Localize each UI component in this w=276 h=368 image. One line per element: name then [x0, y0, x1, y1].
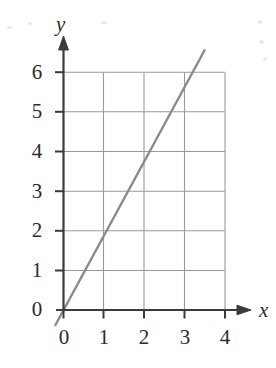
y-axis-arrowhead — [59, 36, 69, 50]
data-line-y-equals-2x — [55, 50, 205, 327]
y-tick-label-4: 4 — [28, 141, 46, 162]
x-axis-ticks — [64, 310, 226, 319]
x-axis — [56, 305, 251, 318]
x-tick-label-3: 3 — [176, 327, 194, 348]
x-tick-label-0: 0 — [55, 327, 73, 348]
y-axis — [55, 36, 68, 310]
chart-figure: y x 6 5 4 3 2 1 0 0 1 2 3 4 — [0, 0, 276, 368]
y-tick-label-2: 2 — [28, 220, 46, 241]
y-axis-label: y — [56, 14, 65, 35]
x-tick-label-2: 2 — [135, 327, 153, 348]
x-tick-label-4: 4 — [216, 327, 234, 348]
x-axis-arrowhead — [237, 305, 251, 315]
y-tick-label-0: 0 — [28, 299, 46, 320]
x-tick-label-1: 1 — [95, 327, 113, 348]
y-axis-ticks — [55, 72, 64, 270]
x-axis-label: x — [259, 300, 268, 321]
y-tick-label-6: 6 — [28, 62, 46, 83]
grid-lines — [63, 72, 225, 310]
y-tick-label-1: 1 — [28, 260, 46, 281]
y-tick-label-5: 5 — [28, 101, 46, 122]
y-tick-label-3: 3 — [28, 181, 46, 202]
